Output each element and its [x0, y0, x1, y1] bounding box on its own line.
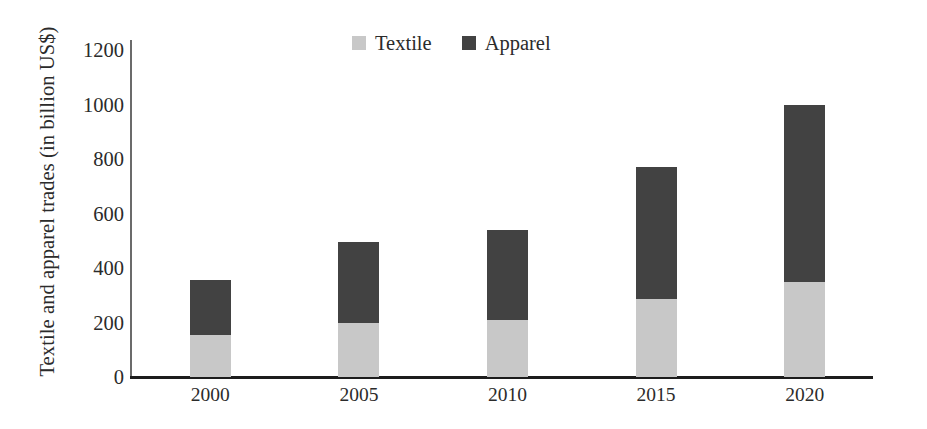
bar-segment-textile	[190, 335, 231, 377]
y-axis-tick-label: 1000	[54, 93, 124, 116]
x-axis-tick-label: 2010	[448, 384, 568, 406]
y-axis-tick-label: 800	[54, 148, 124, 171]
bar-segment-apparel	[487, 230, 528, 320]
x-axis-tick-label: 2000	[150, 384, 270, 406]
legend-swatch-icon	[462, 36, 476, 50]
chart-legend: TextileApparel	[352, 33, 551, 54]
legend-item-apparel: Apparel	[462, 33, 551, 54]
x-axis-tick-label: 2005	[299, 384, 419, 406]
bar-segment-apparel	[784, 105, 825, 282]
stacked-bar-chart: Textile and apparel trades (in billion U…	[0, 0, 927, 429]
x-axis-tick-label: 2020	[745, 384, 865, 406]
bar-segment-textile	[487, 320, 528, 377]
legend-label: Textile	[375, 33, 432, 54]
y-axis-tick-label: 0	[54, 366, 124, 389]
y-axis-tick-label: 400	[54, 257, 124, 280]
bar-segment-textile	[338, 323, 379, 378]
bar-segment-apparel	[636, 167, 677, 299]
plot-area	[130, 50, 873, 377]
y-axis-tick-label: 600	[54, 202, 124, 225]
legend-label: Apparel	[485, 33, 551, 54]
y-axis-tick-label: 200	[54, 311, 124, 334]
y-axis-tick-labels: 020040060080010001200	[52, 0, 124, 429]
legend-swatch-icon	[352, 36, 366, 50]
x-axis-tick-label: 2015	[596, 384, 716, 406]
legend-item-textile: Textile	[352, 33, 432, 54]
bar-segment-textile	[784, 282, 825, 377]
y-axis-tick-label: 1200	[54, 39, 124, 62]
bar-segment-textile	[636, 299, 677, 377]
bar-segment-apparel	[338, 242, 379, 322]
bar-segment-apparel	[190, 280, 231, 335]
